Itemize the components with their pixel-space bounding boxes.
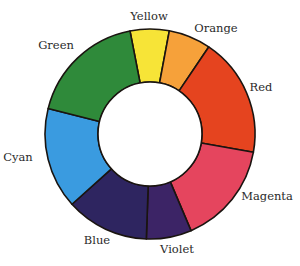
label-cyan: Cyan	[3, 152, 33, 164]
label-blue: Blue	[84, 235, 110, 247]
label-yellow: Yellow	[130, 11, 168, 23]
label-violet: Violet	[160, 244, 194, 256]
label-magenta: Magenta	[241, 191, 293, 203]
label-orange: Orange	[194, 23, 237, 35]
label-green: Green	[38, 40, 74, 52]
wheel-center-hole	[98, 82, 202, 186]
label-red: Red	[250, 82, 273, 94]
